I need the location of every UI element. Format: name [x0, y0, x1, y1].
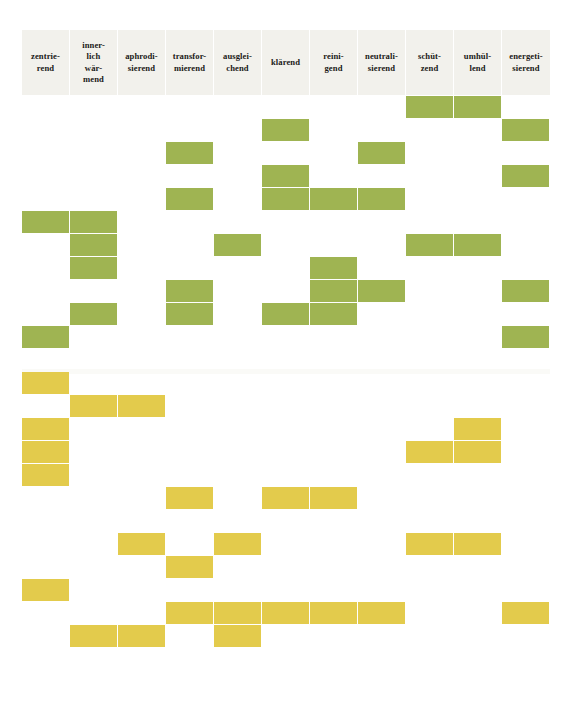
matrix-cell-aphrodisierend-r13[interactable] [118, 395, 165, 417]
matrix-cell-umhuellend-r0[interactable] [454, 96, 501, 118]
matrix-cell-transformierend-r9[interactable] [166, 303, 213, 325]
matrix-cell-zentrierend-r16[interactable] [22, 464, 69, 486]
matrix-cell-zentrierend-r5[interactable] [22, 211, 69, 233]
matrix-cell-innerlich-waermend-r23[interactable] [70, 625, 117, 647]
matrix-cell-reinigend-r8[interactable] [310, 280, 357, 302]
matrix-cell-zentrierend-r14[interactable] [22, 418, 69, 440]
matrix-cell-klaerend-r1[interactable] [262, 119, 309, 141]
matrix-cell-reinigend-r7[interactable] [310, 257, 357, 279]
matrix-cell-neutralisierend-r2[interactable] [358, 142, 405, 164]
matrix-cell-reinigend-r22[interactable] [310, 602, 357, 624]
matrix-cell-transformierend-r2[interactable] [166, 142, 213, 164]
matrix-cell-klaerend-r4[interactable] [262, 188, 309, 210]
matrix-cell-reinigend-r17[interactable] [310, 487, 357, 509]
matrix-cell-energetisierend-r1[interactable] [502, 119, 549, 141]
fragrance-property-matrix: zentrie- rendinner- lich wär- mendaphrod… [0, 0, 579, 708]
matrix-cell-energetisierend-r22[interactable] [502, 602, 549, 624]
matrix-cell-schuetzend-r0[interactable] [406, 96, 453, 118]
matrix-cell-aphrodisierend-r23[interactable] [118, 625, 165, 647]
matrix-cell-energetisierend-r8[interactable] [502, 280, 549, 302]
matrix-cell-innerlich-waermend-r7[interactable] [70, 257, 117, 279]
matrix-cell-ausgleichend-r6[interactable] [214, 234, 261, 256]
matrix-cell-transformierend-r22[interactable] [166, 602, 213, 624]
matrix-cell-neutralisierend-r4[interactable] [358, 188, 405, 210]
matrix-cell-zentrierend-r15[interactable] [22, 441, 69, 463]
matrix-cell-schuetzend-r19[interactable] [406, 533, 453, 555]
matrix-cell-zentrierend-r10[interactable] [22, 326, 69, 348]
matrix-cell-innerlich-waermend-r9[interactable] [70, 303, 117, 325]
matrix-cell-aphrodisierend-r19[interactable] [118, 533, 165, 555]
matrix-cell-transformierend-r20[interactable] [166, 556, 213, 578]
matrix-cell-klaerend-r3[interactable] [262, 165, 309, 187]
matrix-cell-ausgleichend-r22[interactable] [214, 602, 261, 624]
matrix-cell-transformierend-r17[interactable] [166, 487, 213, 509]
matrix-cell-energetisierend-r10[interactable] [502, 326, 549, 348]
matrix-cell-umhuellend-r14[interactable] [454, 418, 501, 440]
matrix-cell-zentrierend-r21[interactable] [22, 579, 69, 601]
matrix-cell-schuetzend-r6[interactable] [406, 234, 453, 256]
matrix-cells-layer [0, 0, 579, 708]
matrix-cell-umhuellend-r15[interactable] [454, 441, 501, 463]
matrix-cell-energetisierend-r3[interactable] [502, 165, 549, 187]
matrix-cell-neutralisierend-r22[interactable] [358, 602, 405, 624]
matrix-cell-innerlich-waermend-r5[interactable] [70, 211, 117, 233]
matrix-cell-reinigend-r4[interactable] [310, 188, 357, 210]
matrix-cell-ausgleichend-r19[interactable] [214, 533, 261, 555]
matrix-cell-umhuellend-r19[interactable] [454, 533, 501, 555]
matrix-cell-transformierend-r8[interactable] [166, 280, 213, 302]
matrix-cell-ausgleichend-r23[interactable] [214, 625, 261, 647]
matrix-cell-neutralisierend-r8[interactable] [358, 280, 405, 302]
matrix-cell-klaerend-r22[interactable] [262, 602, 309, 624]
matrix-cell-klaerend-r9[interactable] [262, 303, 309, 325]
matrix-cell-transformierend-r4[interactable] [166, 188, 213, 210]
matrix-cell-schuetzend-r15[interactable] [406, 441, 453, 463]
matrix-cell-klaerend-r17[interactable] [262, 487, 309, 509]
matrix-cell-innerlich-waermend-r13[interactable] [70, 395, 117, 417]
matrix-cell-zentrierend-r12[interactable] [22, 372, 69, 394]
matrix-cell-innerlich-waermend-r6[interactable] [70, 234, 117, 256]
matrix-cell-reinigend-r9[interactable] [310, 303, 357, 325]
matrix-cell-umhuellend-r6[interactable] [454, 234, 501, 256]
